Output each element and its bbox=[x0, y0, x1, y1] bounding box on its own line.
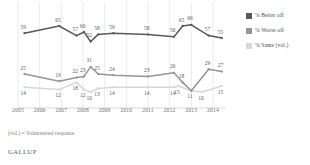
point-value-label: 19 bbox=[55, 73, 61, 78]
x-tick-2013: 2013 bbox=[185, 108, 197, 114]
x-tick-2014: 2014 bbox=[207, 108, 219, 114]
point-value-label: 23 bbox=[144, 68, 150, 73]
point-value-label: 65 bbox=[55, 18, 61, 23]
data-point bbox=[190, 90, 192, 92]
data-point bbox=[97, 73, 99, 75]
x-tick-2005: 2005 bbox=[12, 108, 24, 114]
data-point bbox=[173, 86, 175, 88]
data-point bbox=[97, 33, 99, 35]
data-point bbox=[89, 40, 91, 42]
x-tick-2007: 2007 bbox=[55, 108, 67, 114]
point-value-label: 57 bbox=[205, 27, 211, 32]
data-point bbox=[221, 70, 223, 72]
data-point bbox=[147, 75, 149, 77]
data-point bbox=[89, 91, 91, 93]
point-value-label: 59 bbox=[21, 25, 27, 30]
legend-swatch-icon bbox=[246, 13, 252, 19]
point-value-label: 13 bbox=[94, 92, 100, 97]
point-value-label: 12 bbox=[80, 93, 86, 98]
data-point bbox=[23, 32, 25, 34]
point-value-label: 25 bbox=[21, 66, 27, 71]
footnote: (vol.) = Volunteered response bbox=[8, 130, 75, 136]
point-value-label: 14 bbox=[109, 91, 115, 96]
legend-item-worse[interactable]: % Worse off bbox=[246, 24, 308, 37]
point-value-label: 14 bbox=[21, 91, 27, 96]
data-point bbox=[58, 80, 60, 82]
legend-item-same[interactable]: % Same (vol.) bbox=[246, 39, 308, 52]
data-point bbox=[75, 34, 77, 36]
gallup-logo: GALLUP bbox=[8, 148, 37, 155]
point-value-label: 65 bbox=[179, 18, 185, 23]
data-point bbox=[182, 25, 184, 27]
point-value-label: 12 bbox=[55, 93, 61, 98]
data-point bbox=[190, 24, 192, 26]
plot-svg bbox=[18, 8, 226, 104]
data-point bbox=[182, 81, 184, 83]
data-point bbox=[58, 25, 60, 27]
point-value-label: 18 bbox=[179, 74, 185, 79]
data-point bbox=[173, 36, 175, 38]
data-point bbox=[75, 76, 77, 78]
data-point bbox=[221, 85, 223, 87]
point-value-label: 60 bbox=[80, 24, 86, 29]
point-value-label: 57 bbox=[73, 27, 79, 32]
data-point bbox=[97, 87, 99, 89]
x-tick-2009: 2009 bbox=[99, 108, 111, 114]
data-point bbox=[89, 66, 91, 68]
data-point bbox=[173, 72, 175, 74]
x-tick-2012: 2012 bbox=[164, 108, 176, 114]
point-value-label: 14 bbox=[144, 91, 150, 96]
data-point bbox=[83, 31, 85, 33]
point-value-label: 59 bbox=[109, 25, 115, 30]
legend-label: % Worse off bbox=[255, 28, 284, 34]
data-point bbox=[83, 75, 85, 77]
point-value-label: 66 bbox=[187, 16, 193, 21]
point-value-label: 15 bbox=[218, 90, 224, 95]
point-value-label: 23 bbox=[80, 68, 86, 73]
point-value-label: 55 bbox=[218, 30, 224, 35]
x-tick-2006: 2006 bbox=[34, 108, 46, 114]
chart-area: 5965576052585958566566575525192223312524… bbox=[0, 0, 240, 128]
point-value-label: 15 bbox=[174, 90, 180, 95]
legend-label: % Same (vol.) bbox=[255, 43, 288, 49]
x-axis-tick-labels: 2005200620072008200920102011201220132014 bbox=[18, 108, 226, 120]
point-value-label: 31 bbox=[87, 58, 93, 63]
data-point bbox=[221, 37, 223, 39]
data-point bbox=[208, 34, 210, 36]
data-point bbox=[147, 33, 149, 35]
data-point bbox=[208, 68, 210, 70]
point-value-label: 58 bbox=[144, 26, 150, 31]
point-value-label: 52 bbox=[87, 33, 93, 38]
point-value-label: 58 bbox=[94, 26, 100, 31]
data-point bbox=[112, 32, 114, 34]
data-point bbox=[83, 88, 85, 90]
data-point bbox=[23, 73, 25, 75]
point-value-label: 24 bbox=[109, 67, 115, 72]
legend-label: % Better off bbox=[255, 13, 284, 19]
point-value-label: 22 bbox=[73, 69, 79, 74]
data-point bbox=[112, 86, 114, 88]
legend-swatch-icon bbox=[246, 43, 252, 49]
plot-region: 5965576052585958566566575525192223312524… bbox=[18, 8, 226, 104]
data-point bbox=[112, 74, 114, 76]
x-tick-2011: 2011 bbox=[142, 108, 154, 114]
legend-swatch-icon bbox=[246, 28, 252, 34]
point-value-label: 56 bbox=[170, 28, 176, 33]
x-tick-2010: 2010 bbox=[120, 108, 132, 114]
data-point bbox=[23, 86, 25, 88]
x-tick-2008: 2008 bbox=[77, 108, 89, 114]
series-line--better-off bbox=[25, 25, 222, 42]
point-value-label: 25 bbox=[94, 66, 100, 71]
point-value-label: 10 bbox=[87, 96, 93, 101]
data-point bbox=[58, 88, 60, 90]
legend-item-better[interactable]: % Better off bbox=[246, 9, 308, 22]
point-value-label: 26 bbox=[170, 64, 176, 69]
point-value-label: 27 bbox=[218, 63, 224, 68]
point-value-label: 29 bbox=[205, 61, 211, 66]
chart-legend: % Better off% Worse off% Same (vol.) bbox=[246, 9, 308, 54]
point-value-label: 18 bbox=[73, 86, 79, 91]
data-point bbox=[147, 86, 149, 88]
data-point bbox=[177, 85, 179, 87]
point-value-label: 11 bbox=[187, 94, 192, 99]
data-point bbox=[201, 91, 203, 93]
